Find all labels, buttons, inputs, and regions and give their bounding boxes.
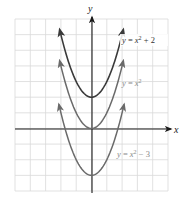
curve-label-mid: y = x2 [121, 78, 142, 89]
y-axis-label: y [87, 3, 93, 14]
curve-label-top: y = x2 + 2 [121, 35, 155, 46]
curve-label-bottom: y = x2 − 3 [116, 149, 150, 160]
x-axis-label: x [173, 124, 179, 135]
parabola-graph: x y y = x2 + 2 y = x2 y = x2 − 3 [0, 0, 184, 201]
